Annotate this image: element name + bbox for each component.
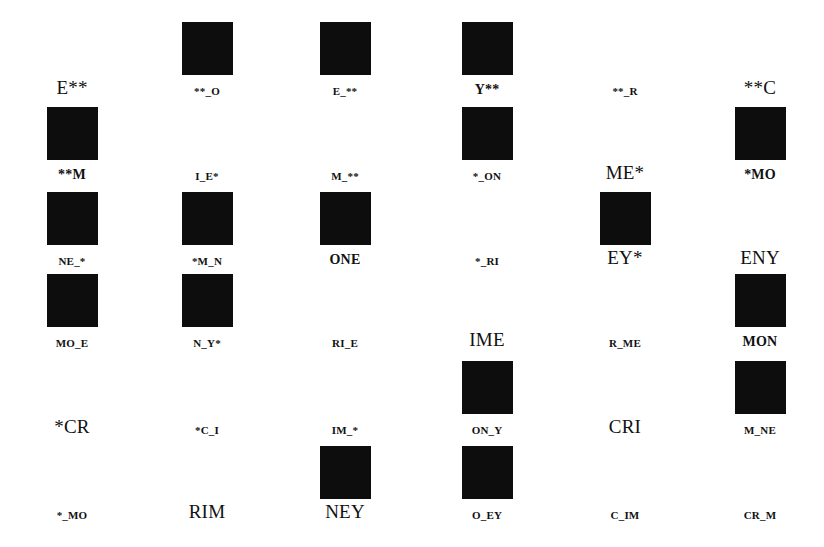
grid-cell: MON — [695, 270, 824, 350]
grid-cell: EY* — [560, 188, 690, 268]
cell-label: **C — [695, 77, 824, 99]
cell-label: E_** — [280, 85, 410, 97]
grid-cell: *MO — [695, 103, 824, 183]
filled-square — [462, 446, 513, 499]
cell-label: **_O — [142, 85, 272, 97]
cell-label: *_ON — [422, 170, 552, 182]
grid-cell: ENY — [695, 188, 824, 268]
cell-label: R_ME — [560, 337, 690, 349]
cell-label: *CR — [7, 416, 137, 438]
filled-square — [320, 192, 371, 245]
grid-cell: E_** — [280, 18, 410, 98]
grid-cell: *C_I — [142, 357, 272, 437]
grid-cell: ON_Y — [422, 357, 552, 437]
filled-square — [462, 361, 513, 414]
cell-label: *_RI — [422, 255, 552, 267]
grid-cell: RIM — [142, 442, 272, 522]
grid-cell: I_E* — [142, 103, 272, 183]
cell-label: *C_I — [142, 424, 272, 436]
cell-label: ONE — [280, 252, 410, 268]
grid-cell: Y** — [422, 18, 552, 98]
filled-square — [462, 22, 513, 75]
grid-cell: RI_E — [280, 270, 410, 350]
cell-label: MO_E — [7, 337, 137, 349]
cell-label: *MO — [695, 167, 824, 183]
cell-label: CRI — [560, 416, 690, 438]
grid-cell: NE_* — [7, 188, 137, 268]
filled-square — [735, 361, 786, 414]
grid-cell: M_NE — [695, 357, 824, 437]
cell-label: RIM — [142, 501, 272, 523]
filled-square — [47, 192, 98, 245]
cell-label: O_EY — [422, 509, 552, 521]
filled-square — [320, 446, 371, 499]
filled-square — [735, 274, 786, 327]
grid-cell: *_RI — [422, 188, 552, 268]
grid-cell: CRI — [560, 357, 690, 437]
grid-cell: N_Y* — [142, 270, 272, 350]
filled-square — [47, 274, 98, 327]
grid-cell: ONE — [280, 188, 410, 268]
grid-cell: C_IM — [560, 442, 690, 522]
cell-label: C_IM — [560, 509, 690, 521]
grid-cell: E** — [7, 18, 137, 98]
filled-square — [320, 22, 371, 75]
grid-cell: MO_E — [7, 270, 137, 350]
grid-cell: **_R — [560, 18, 690, 98]
cell-label: E** — [7, 77, 137, 99]
cell-label: I_E* — [142, 170, 272, 182]
grid-cell: IM_* — [280, 357, 410, 437]
cell-label: ON_Y — [422, 424, 552, 436]
filled-square — [47, 107, 98, 160]
cell-label: IM_* — [280, 424, 410, 436]
cell-label: ENY — [695, 247, 824, 269]
grid-cell: **_O — [142, 18, 272, 98]
filled-square — [182, 192, 233, 245]
cell-label: IME — [422, 329, 552, 351]
cell-label: CR_M — [695, 509, 824, 521]
cell-label: Y** — [422, 82, 552, 98]
grid-cell: *CR — [7, 357, 137, 437]
grid-cell: **M — [7, 103, 137, 183]
grid-cell: CR_M — [695, 442, 824, 522]
cell-label: *M_N — [142, 255, 272, 267]
grid-cell: O_EY — [422, 442, 552, 522]
filled-square — [462, 107, 513, 160]
grid-cell: M_** — [280, 103, 410, 183]
grid-cell: *M_N — [142, 188, 272, 268]
cell-label: M_NE — [695, 424, 824, 436]
cell-label: MON — [695, 334, 824, 350]
cell-label: *_MO — [7, 509, 137, 521]
grid-cell: **C — [695, 18, 824, 98]
grid-cell: *_ON — [422, 103, 552, 183]
filled-square — [735, 107, 786, 160]
cell-label: **_R — [560, 85, 690, 97]
filled-square — [600, 192, 651, 245]
cell-label: EY* — [560, 247, 690, 269]
cell-label: N_Y* — [142, 337, 272, 349]
grid-cell: NEY — [280, 442, 410, 522]
filled-square — [182, 274, 233, 327]
filled-square — [182, 22, 233, 75]
grid-cell: R_ME — [560, 270, 690, 350]
cell-label: **M — [7, 167, 137, 183]
grid-cell: *_MO — [7, 442, 137, 522]
grid-cell: IME — [422, 270, 552, 350]
cell-label: M_** — [280, 170, 410, 182]
cell-label: NEY — [280, 501, 410, 523]
cell-label: ME* — [560, 162, 690, 184]
cell-label: NE_* — [7, 255, 137, 267]
grid-cell: ME* — [560, 103, 690, 183]
cell-label: RI_E — [280, 337, 410, 349]
